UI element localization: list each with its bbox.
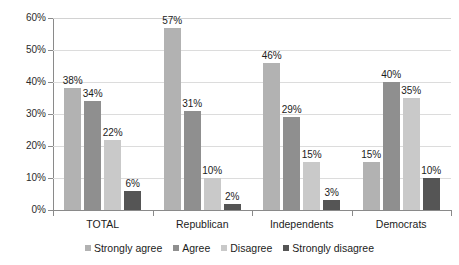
bar-group: 38%34%22%6% — [53, 18, 153, 210]
bar[interactable] — [323, 200, 340, 210]
bar-value-label: 46% — [255, 51, 289, 61]
bar-value-label: 38% — [56, 76, 90, 86]
x-axis-category-label: Republican — [153, 219, 253, 230]
legend-item[interactable]: Strongly agree — [85, 243, 162, 254]
legend-swatch-icon — [85, 245, 91, 251]
bar[interactable] — [124, 191, 141, 210]
bar[interactable] — [263, 63, 280, 210]
bar[interactable] — [303, 162, 320, 210]
x-axis-category-label: TOTAL — [53, 219, 153, 230]
y-axis-tick-label: 30% — [0, 109, 46, 119]
legend-label: Disagree — [230, 243, 272, 254]
y-axis-tick-label: 40% — [0, 77, 46, 87]
y-axis-tick-label: 20% — [0, 141, 46, 151]
bar-value-label: 15% — [295, 150, 329, 160]
x-axis-separator — [252, 210, 253, 216]
y-axis-tick-label: 0% — [0, 205, 46, 215]
bar[interactable] — [403, 98, 420, 210]
bar-value-label: 3% — [315, 188, 349, 198]
legend-item[interactable]: Agree — [173, 243, 210, 254]
bar-value-label: 35% — [394, 86, 428, 96]
legend-label: Strongly disagree — [292, 243, 374, 254]
x-axis-separator — [352, 210, 353, 216]
legend-label: Strongly agree — [94, 243, 162, 254]
bar[interactable] — [164, 28, 181, 210]
bar[interactable] — [224, 204, 241, 210]
x-axis-separator — [53, 210, 54, 216]
y-axis-tick-label: 10% — [0, 173, 46, 183]
chart-legend: Strongly agreeAgreeDisagreeStrongly disa… — [0, 243, 459, 254]
y-axis-tick-label: 50% — [0, 45, 46, 55]
x-axis-category-label: Democrats — [352, 219, 452, 230]
legend-swatch-icon — [173, 245, 179, 251]
bar-value-label: 34% — [76, 89, 110, 99]
legend-swatch-icon — [221, 245, 227, 251]
bar[interactable] — [104, 140, 121, 210]
bar-value-label: 31% — [175, 99, 209, 109]
bar-value-label: 6% — [116, 179, 150, 189]
y-axis-labels: 60%50%40%30%20%10%0% — [0, 0, 46, 265]
bar-value-label: 22% — [96, 128, 130, 138]
bar-value-label: 10% — [195, 166, 229, 176]
legend-swatch-icon — [283, 245, 289, 251]
plot-area: 38%34%22%6%57%31%10%2%46%29%15%3%15%40%3… — [53, 18, 451, 210]
bar-value-label: 57% — [155, 16, 189, 26]
bar[interactable] — [84, 101, 101, 210]
x-axis-category-label: Independents — [252, 219, 352, 230]
legend-item[interactable]: Disagree — [221, 243, 272, 254]
bar-value-label: 40% — [374, 70, 408, 80]
bar[interactable] — [383, 82, 400, 210]
x-axis-separator — [153, 210, 154, 216]
bar-group: 15%40%35%10% — [352, 18, 452, 210]
bar-group: 57%31%10%2% — [153, 18, 253, 210]
bar-group: 46%29%15%3% — [252, 18, 352, 210]
legend-item[interactable]: Strongly disagree — [283, 243, 374, 254]
bar-value-label: 29% — [275, 105, 309, 115]
x-axis-separator — [451, 210, 452, 216]
bar-chart: 60%50%40%30%20%10%0% 38%34%22%6%57%31%10… — [0, 0, 459, 265]
bar-value-label: 10% — [414, 166, 448, 176]
bar-value-label: 2% — [215, 192, 249, 202]
y-axis-tick-label: 60% — [0, 13, 46, 23]
bar[interactable] — [423, 178, 440, 210]
bar[interactable] — [64, 88, 81, 210]
legend-label: Agree — [182, 243, 210, 254]
bar[interactable] — [363, 162, 380, 210]
bar[interactable] — [283, 117, 300, 210]
bar[interactable] — [184, 111, 201, 210]
